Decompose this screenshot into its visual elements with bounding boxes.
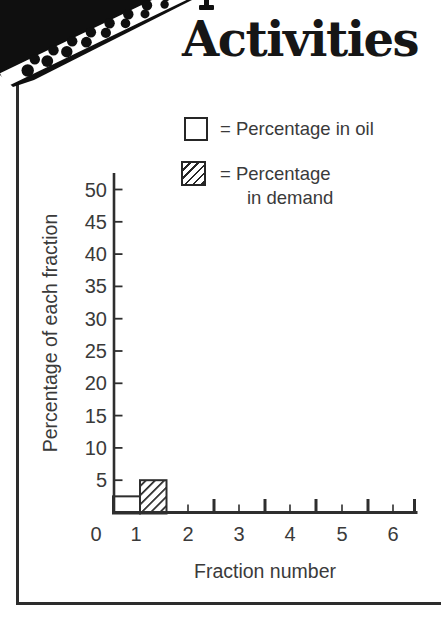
x-tick-label: 0 [90, 523, 101, 545]
y-tick-label: 25 [85, 340, 107, 362]
bar-oil [113, 496, 140, 513]
bar-chart: 51015202530354045500123456Fraction numbe… [0, 0, 441, 621]
x-tick-label: 3 [233, 523, 244, 545]
x-tick-label: 5 [336, 523, 347, 545]
x-tick-label: 1 [130, 523, 141, 545]
x-tick-label: 2 [182, 523, 193, 545]
bar-demand [140, 480, 167, 513]
y-tick-label: 50 [85, 179, 107, 201]
y-tick-label: 40 [85, 243, 107, 265]
y-tick-label: 45 [85, 211, 107, 233]
x-axis-title: Fraction number [194, 560, 336, 582]
y-tick-label: 20 [85, 372, 107, 394]
y-tick-label: 5 [96, 469, 107, 491]
y-tick-label: 30 [85, 308, 107, 330]
y-tick-label: 15 [85, 405, 107, 427]
x-tick-label: 6 [387, 523, 398, 545]
x-tick-label: 4 [284, 523, 295, 545]
y-tick-label: 35 [85, 275, 107, 297]
y-axis-title: Percentage of each fraction [39, 214, 61, 453]
scanned-textbook-page: Activities = Percentage in oil = Percent… [0, 0, 441, 621]
y-tick-label: 10 [85, 437, 107, 459]
